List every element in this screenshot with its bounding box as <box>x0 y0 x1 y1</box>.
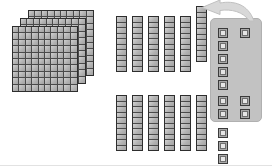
unit-cube-face <box>242 111 248 117</box>
regroup-arrow-icon <box>198 0 256 22</box>
unit-cube[interactable] <box>218 154 228 164</box>
unit-cube[interactable] <box>218 141 228 151</box>
unit-cube-face <box>220 43 226 49</box>
unit-cube-face <box>220 98 226 104</box>
unit-cube-face <box>220 130 226 136</box>
unit-cube[interactable] <box>218 128 228 138</box>
unit-cube[interactable] <box>218 96 228 106</box>
unit-cube[interactable] <box>240 28 250 38</box>
unit-cube[interactable] <box>218 28 228 38</box>
unit-cube-face <box>220 111 226 117</box>
unit-cube-layer[interactable] <box>0 0 272 166</box>
unit-cube-face <box>220 156 226 162</box>
unit-cube[interactable] <box>218 109 228 119</box>
unit-cube-face <box>242 98 248 104</box>
unit-cube-face <box>220 56 226 62</box>
unit-cube[interactable] <box>218 80 228 90</box>
unit-cube-face <box>220 143 226 149</box>
unit-cube-face <box>242 30 248 36</box>
unit-cube[interactable] <box>240 109 250 119</box>
unit-cube-face <box>220 30 226 36</box>
unit-cube[interactable] <box>218 54 228 64</box>
base-ten-blocks-canvas: Base-ten blocks regrouping workspace <box>0 0 272 166</box>
unit-cube[interactable] <box>240 96 250 106</box>
unit-cube[interactable] <box>218 41 228 51</box>
unit-cube-face <box>220 69 226 75</box>
unit-cube[interactable] <box>218 67 228 77</box>
unit-cube-face <box>220 82 226 88</box>
